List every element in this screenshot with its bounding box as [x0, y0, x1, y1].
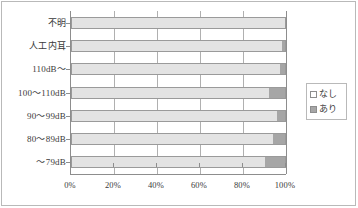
y-tick-0 — [66, 23, 70, 24]
legend-swatch-nashi-icon — [310, 91, 317, 98]
x-axis-line — [70, 174, 286, 175]
stacked-bar[interactable] — [71, 40, 286, 52]
bar-row — [71, 17, 285, 29]
stacked-bar[interactable] — [71, 110, 286, 122]
bar-segment-ari[interactable] — [277, 110, 286, 122]
bar-row — [71, 156, 285, 168]
bar-row — [71, 133, 285, 145]
x-tick-40 — [156, 163, 157, 167]
x-tick-0 — [70, 163, 71, 167]
chart-legend: なし あり — [306, 83, 347, 120]
bar-segment-nashi[interactable] — [71, 40, 282, 52]
stacked-bar[interactable] — [71, 87, 286, 99]
y-axis-label-2: 110dB～ — [32, 64, 66, 74]
legend-label-nashi: なし — [319, 89, 337, 99]
x-axis-label-80: 80% — [222, 180, 262, 190]
bar-row — [71, 87, 285, 99]
plot-area — [70, 11, 285, 174]
bar-segment-nashi[interactable] — [71, 17, 286, 29]
y-axis-label-6: ～79dB — [36, 157, 66, 167]
legend-item-ari[interactable]: あり — [310, 102, 346, 116]
y-tick-5 — [66, 139, 70, 140]
legend-item-nashi[interactable]: なし — [310, 87, 346, 101]
x-axis-label-100: 100% — [265, 180, 305, 190]
bar-segment-ari[interactable] — [282, 40, 286, 52]
x-tick-60 — [199, 163, 200, 167]
bar-row — [71, 63, 285, 75]
bar-segment-ari[interactable] — [265, 156, 287, 168]
gridline-100 — [286, 11, 287, 174]
bar-segment-nashi[interactable] — [71, 156, 265, 168]
x-axis-label-40: 40% — [136, 180, 176, 190]
y-axis-label-3: 100～110dB — [18, 88, 66, 98]
bar-segment-nashi[interactable] — [71, 63, 280, 75]
stacked-bar[interactable] — [71, 133, 286, 145]
stacked-bar[interactable] — [71, 156, 286, 168]
x-tick-80 — [242, 163, 243, 167]
y-tick-4 — [66, 116, 70, 117]
stacked-bar[interactable] — [71, 17, 286, 29]
y-tick-1 — [66, 46, 70, 47]
bar-segment-nashi[interactable] — [71, 133, 273, 145]
legend-swatch-ari-icon — [310, 106, 317, 113]
y-axis-label-0: 不明 — [48, 18, 66, 28]
y-tick-2 — [66, 69, 70, 70]
y-tick-3 — [66, 93, 70, 94]
stacked-bar[interactable] — [71, 63, 286, 75]
bar-segment-ari[interactable] — [273, 133, 286, 145]
bar-segment-nashi[interactable] — [71, 87, 269, 99]
bar-row — [71, 110, 285, 122]
y-axis-label-1: 人工内耳 — [29, 41, 66, 51]
x-tick-20 — [113, 163, 114, 167]
bar-segment-ari[interactable] — [280, 63, 286, 75]
bar-segment-ari[interactable] — [269, 87, 286, 99]
legend-label-ari: あり — [319, 104, 337, 114]
bar-segment-nashi[interactable] — [71, 110, 277, 122]
x-tick-100 — [285, 163, 286, 167]
x-axis-label-20: 20% — [93, 180, 133, 190]
bar-row — [71, 40, 285, 52]
y-axis-label-4: 90～99dB — [27, 111, 66, 121]
stacked-bar-chart: 不明人工内耳110dB～100～110dB90～99dB80～89dB～79dB… — [0, 0, 358, 208]
x-axis-label-0: 0% — [50, 180, 90, 190]
y-axis-label-5: 80～89dB — [27, 134, 66, 144]
x-axis-label-60: 60% — [179, 180, 219, 190]
